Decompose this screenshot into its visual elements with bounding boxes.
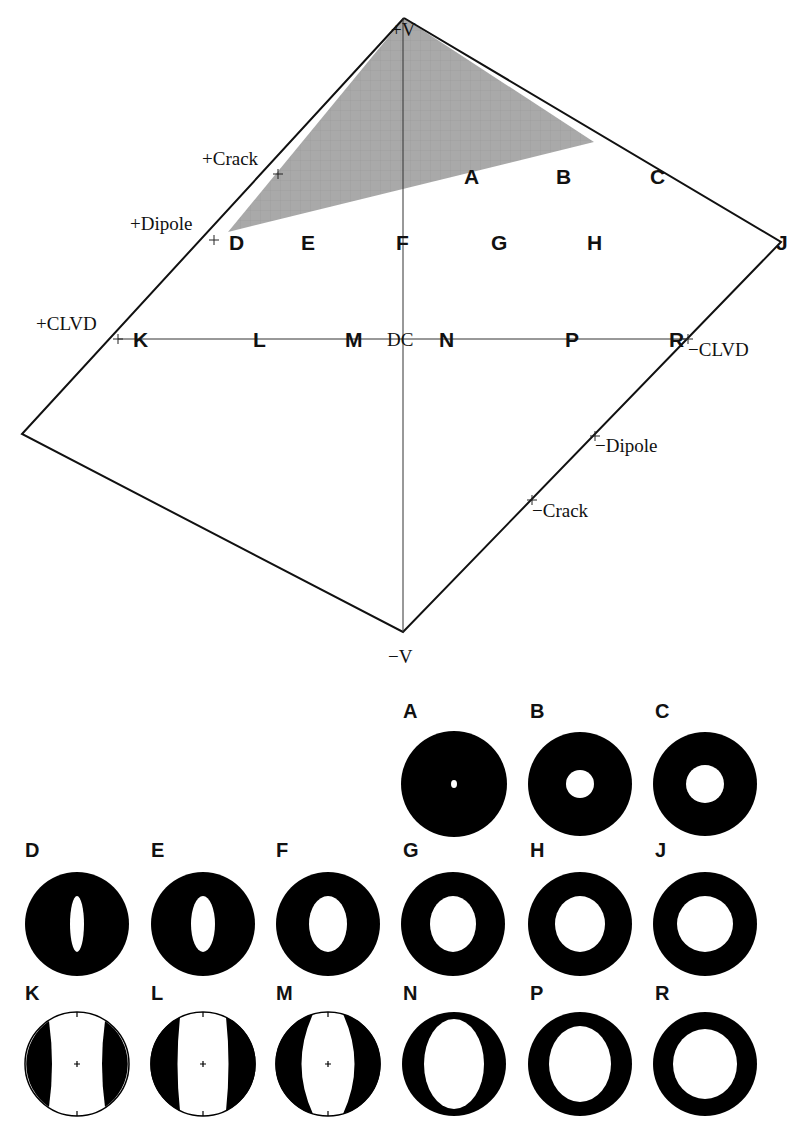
point-l: L — [253, 328, 266, 351]
svg-text:B: B — [530, 700, 544, 722]
point-d: D — [229, 231, 244, 254]
point-k: K — [133, 328, 148, 351]
point-m: M — [345, 328, 363, 351]
point-b: B — [556, 165, 571, 188]
beachball-r: R — [653, 982, 757, 1116]
point-f: F — [396, 231, 409, 254]
svg-text:F: F — [276, 839, 288, 861]
svg-text:P: P — [530, 982, 543, 1004]
beachball-n: N — [402, 982, 506, 1116]
beachball-g: G — [401, 839, 505, 976]
svg-text:N: N — [403, 982, 417, 1004]
beachball-f: F — [276, 839, 380, 976]
svg-text:K: K — [25, 982, 40, 1004]
svg-text:E: E — [151, 839, 164, 861]
beachball-b: B — [528, 700, 632, 836]
beachball-d: D — [25, 839, 129, 976]
point-c: C — [650, 165, 665, 188]
beachball-c: C — [653, 700, 757, 836]
point-a: A — [464, 165, 479, 188]
label-plus-clvd: +CLVD — [36, 313, 97, 334]
label-plus-v: +V — [391, 19, 416, 40]
beachball-e: E — [151, 839, 255, 976]
label-minus-dipole: −Dipole — [595, 435, 657, 456]
beachball-m: M — [275, 982, 380, 1116]
svg-text:C: C — [655, 700, 669, 722]
beachball-a: A — [401, 700, 507, 837]
svg-text:H: H — [530, 839, 544, 861]
label-minus-v: −V — [388, 646, 413, 667]
point-h: H — [587, 231, 602, 254]
label-minus-clvd: −CLVD — [688, 339, 749, 360]
svg-text:L: L — [151, 982, 163, 1004]
point-r: R — [669, 328, 684, 351]
beachball-j: J — [653, 839, 757, 976]
point-p: P — [565, 328, 579, 351]
point-j: J — [776, 231, 788, 254]
beachball-p: P — [528, 982, 632, 1116]
svg-text:D: D — [25, 839, 39, 861]
svg-text:G: G — [403, 839, 419, 861]
point-e: E — [301, 231, 315, 254]
svg-text:R: R — [655, 982, 670, 1004]
point-g: G — [491, 231, 507, 254]
point-n: N — [439, 328, 454, 351]
beachball-h: H — [528, 839, 632, 976]
label-minus-crack: −Crack — [532, 500, 589, 521]
label-dc: DC — [387, 329, 413, 350]
svg-text:A: A — [403, 700, 417, 722]
label-plus-crack: +Crack — [202, 148, 259, 169]
source-type-diagram: +V −V DC +Crack +Dipole +CLVD −CLVD −Dip… — [0, 0, 800, 1145]
svg-text:J: J — [655, 839, 666, 861]
label-plus-dipole: +Dipole — [130, 213, 192, 234]
shaded-region — [228, 18, 594, 232]
beachball-l: L — [150, 982, 256, 1116]
svg-text:M: M — [276, 982, 293, 1004]
beachball-k: K — [25, 982, 129, 1116]
